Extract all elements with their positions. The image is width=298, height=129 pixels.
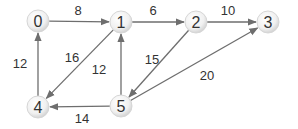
graph-diagram: 8610121612152014 012345	[0, 0, 298, 129]
edge-weight-label: 12	[92, 62, 106, 77]
node-4: 4	[27, 96, 49, 118]
edge-weight-label: 15	[145, 52, 159, 67]
edge-0-to-1	[49, 21, 109, 22]
edge-weight-label: 8	[74, 3, 81, 18]
node-label: 3	[264, 14, 273, 31]
edge-5-to-4	[50, 106, 110, 107]
edge-weight-label: 6	[149, 3, 156, 18]
node-5: 5	[110, 95, 132, 117]
node-label: 5	[117, 98, 126, 115]
edge-weight-label: 14	[75, 111, 89, 126]
node-3: 3	[257, 11, 279, 33]
node-label: 4	[34, 99, 43, 116]
edge-weight-label: 10	[221, 3, 235, 18]
node-2: 2	[185, 11, 207, 33]
node-label: 2	[192, 14, 201, 31]
edge-weight-label: 16	[65, 50, 79, 65]
node-label: 1	[117, 14, 126, 31]
node-label: 0	[34, 13, 43, 30]
node-1: 1	[110, 11, 132, 33]
node-0: 0	[27, 10, 49, 32]
edge-weight-label: 12	[13, 56, 27, 71]
edge-weight-label: 20	[200, 68, 214, 83]
